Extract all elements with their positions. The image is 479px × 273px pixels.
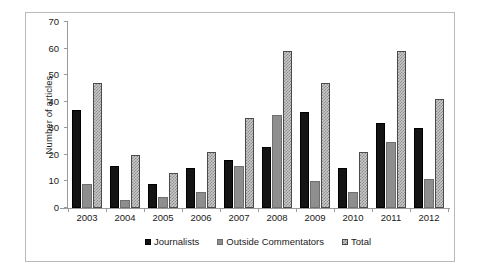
legend-label: Total [351,236,371,248]
legend-item-outside-commentators: Outside Commentators [217,236,324,248]
bar-total [321,83,331,208]
y-axis-tick: 60 [0,43,68,55]
bar-group-2004 [110,22,141,208]
bar-journalists [414,128,424,208]
bar-journalists [262,147,272,208]
bar-journalists [110,166,120,209]
y-axis-tick-label: 50 [48,69,59,81]
bar-outside-commentators [310,181,320,208]
y-axis-tick-label: 20 [48,149,59,161]
bar-outside-commentators [348,192,358,208]
y-axis-tick: 70 [0,16,68,28]
bar-group-2008 [262,22,293,208]
bar-group-2009 [300,22,331,208]
bar-total [435,99,445,208]
y-axis-tick-label: 40 [48,96,59,108]
bar-total [397,51,407,208]
y-axis-tick: 20 [0,149,68,161]
bar-outside-commentators [120,200,130,208]
y-axis-tick: 10 [0,175,68,187]
x-axis-label-2004: 2004 [106,212,144,224]
y-axis-tick: 0 [0,202,68,214]
bar-total [207,152,217,208]
y-axis-tick: 30 [0,122,68,134]
bar-group-2003 [72,22,103,208]
y-axis-tick: 40 [0,96,68,108]
bar-outside-commentators [158,197,168,208]
legend-item-journalists: Journalists [145,236,199,248]
bar-journalists [338,168,348,208]
x-axis-label-2008: 2008 [258,212,296,224]
bar-journalists [72,110,82,208]
y-axis-tick-label: 70 [48,16,59,28]
swatch-total-icon [342,239,348,245]
bar-total [93,83,103,208]
x-axis-label-2012: 2012 [410,212,448,224]
bar-group-2012 [414,22,445,208]
y-axis-tick-label: 10 [48,175,59,187]
bar-group-2006 [186,22,217,208]
y-axis-tick-label: 60 [48,43,59,55]
bar-outside-commentators [272,115,282,208]
bar-journalists [224,160,234,208]
swatch-outside-commentators-icon [217,239,223,245]
bar-group-2011 [376,22,407,208]
x-axis-label-2009: 2009 [296,212,334,224]
bar-outside-commentators [196,192,206,208]
x-axis-label-2005: 2005 [144,212,182,224]
legend-item-total: Total [342,236,371,248]
bar-total [283,51,293,208]
bar-journalists [376,123,386,208]
x-axis-label-2003: 2003 [68,212,106,224]
x-axis-tick-mark [448,208,449,212]
x-axis-line [60,208,450,209]
bar-total [245,118,255,208]
bar-chart-figure: Number of articles 706050403020100 20032… [0,0,479,273]
plot-area [68,22,448,208]
bar-total [169,173,179,208]
bar-outside-commentators [386,142,396,208]
bar-journalists [186,168,196,208]
bar-outside-commentators [82,184,92,208]
bar-group-2010 [338,22,369,208]
bar-group-2005 [148,22,179,208]
y-axis-tick-label: 30 [48,122,59,134]
bar-total [359,152,369,208]
y-axis-tick-label: 0 [54,202,59,214]
bar-group-2007 [224,22,255,208]
legend-label: Journalists [154,236,199,248]
x-axis-label-2007: 2007 [220,212,258,224]
chart-legend: JournalistsOutside CommentatorsTotal [68,234,448,250]
x-axis-label-2006: 2006 [182,212,220,224]
bar-journalists [300,112,310,208]
legend-label: Outside Commentators [226,236,324,248]
bar-outside-commentators [234,166,244,209]
bar-journalists [148,184,158,208]
y-axis-tick: 50 [0,69,68,81]
swatch-journalists-icon [145,239,151,245]
bar-total [131,155,141,208]
x-axis-label-2011: 2011 [372,212,410,224]
bar-outside-commentators [424,179,434,208]
x-axis-label-2010: 2010 [334,212,372,224]
